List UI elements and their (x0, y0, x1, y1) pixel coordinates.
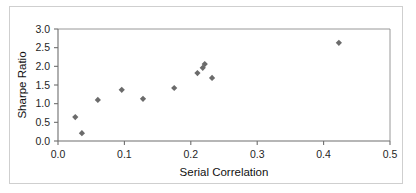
x-tick-label: 0.5 (383, 148, 398, 160)
data-point-marker (194, 70, 200, 76)
y-tick-label: 3.0 (35, 23, 50, 35)
scatter-chart-figure: 0.00.51.01.52.02.53.0 0.00.10.20.30.40.5… (0, 0, 416, 193)
data-point-marker (171, 85, 177, 91)
y-axis-ticks (54, 29, 58, 141)
x-tick-label: 0.0 (51, 148, 66, 160)
x-axis-ticks (58, 141, 390, 145)
x-axis-tick-labels: 0.00.10.20.30.40.5 (51, 148, 398, 160)
data-point-marker (72, 114, 78, 120)
y-axis-label: Sharpe Ratio (16, 51, 28, 118)
x-axis-label: Serial Correlation (180, 166, 269, 178)
y-tick-label: 2.5 (35, 41, 50, 53)
scatter-data-points (72, 40, 342, 137)
y-axis-tick-labels: 0.00.51.01.52.02.53.0 (35, 23, 50, 147)
y-tick-label: 0.5 (35, 116, 50, 128)
plot-area-wrapper: 0.00.51.01.52.02.53.0 0.00.10.20.30.40.5… (0, 0, 416, 193)
y-tick-label: 1.5 (35, 79, 50, 91)
data-point-marker (140, 96, 146, 102)
data-point-marker (95, 97, 101, 103)
data-point-marker (79, 130, 85, 136)
plot-frame (58, 29, 390, 141)
x-tick-label: 0.1 (117, 148, 132, 160)
y-tick-label: 1.0 (35, 97, 50, 109)
chart-canvas: 0.00.51.01.52.02.53.0 0.00.10.20.30.40.5… (0, 0, 416, 193)
y-tick-label: 2.0 (35, 60, 50, 72)
x-tick-label: 0.3 (250, 148, 265, 160)
plot-frame-top-right (58, 29, 390, 141)
x-tick-label: 0.2 (183, 148, 198, 160)
x-tick-label: 0.4 (316, 148, 331, 160)
data-point-marker (119, 87, 125, 93)
y-tick-label: 0.0 (35, 135, 50, 147)
data-point-marker (336, 40, 342, 46)
data-point-marker (209, 75, 215, 81)
